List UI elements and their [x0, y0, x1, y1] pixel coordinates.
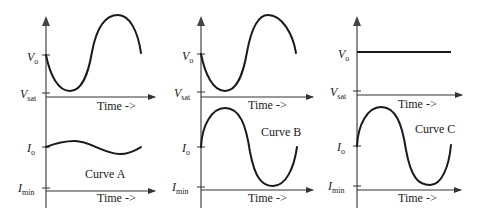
current-curve — [46, 141, 141, 154]
curve-caption: Curve C — [415, 122, 455, 136]
time-label-bottom: Time -> — [248, 191, 287, 205]
label-io: Io — [26, 141, 35, 157]
time-label-top: Time -> — [248, 98, 287, 112]
label-vsat: Vsat — [330, 85, 347, 101]
time-label-bottom: Time -> — [398, 191, 437, 205]
label-imin: Imin — [17, 181, 34, 197]
y-axis-arrow-icon — [42, 16, 50, 26]
label-vo: Vo — [27, 50, 38, 66]
label-vo: Vo — [182, 49, 193, 65]
curve-caption: Curve A — [85, 167, 126, 181]
current-curve — [357, 107, 451, 185]
current-curve — [201, 108, 297, 186]
label-vsat: Vsat — [20, 87, 37, 103]
y-axis-arrow-icon — [353, 16, 361, 26]
label-io: Io — [181, 141, 190, 157]
voltage-curve — [201, 15, 296, 91]
time-label-top: Time -> — [398, 97, 437, 111]
label-vsat: Vsat — [174, 86, 191, 102]
panel-a: Vo Vsat Io Imin Time -> Time -> Curve A — [17, 15, 155, 208]
label-imin: Imin — [171, 180, 188, 196]
label-vo: Vo — [338, 47, 349, 63]
y-axis-arrow-icon — [197, 16, 205, 26]
panel-b: Vo Vsat Io Imin Time -> Time -> Curve B — [171, 15, 313, 208]
voltage-curve — [46, 15, 141, 91]
curves-figure: Vo Vsat Io Imin Time -> Time -> Curve A … — [0, 0, 478, 213]
label-io: Io — [336, 140, 345, 156]
curve-caption: Curve B — [261, 125, 301, 139]
panel-c: Vo Vsat Io Imin Time -> Time -> Curve C — [327, 16, 462, 208]
time-label-bottom: Time -> — [97, 191, 136, 205]
time-label-top: Time -> — [97, 99, 136, 113]
label-imin: Imin — [327, 179, 344, 195]
